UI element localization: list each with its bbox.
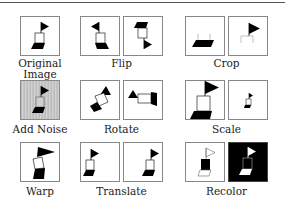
flag-figure-icon <box>81 17 119 55</box>
original-image-panel <box>20 16 60 56</box>
add-noise-panel <box>20 80 60 120</box>
translate-panel-left <box>80 142 120 182</box>
flag-figure-warped-icon <box>21 143 59 181</box>
flag-figure-icon <box>21 17 59 55</box>
flag-figure-icon <box>229 143 267 181</box>
scale-panel-small <box>228 80 268 120</box>
label-translate: Translate <box>80 186 163 197</box>
crop-panel-bottom <box>185 16 225 56</box>
flag-figure-crop-icon <box>229 17 267 55</box>
flag-figure-crop-icon <box>186 17 224 55</box>
label-recolor: Recolor <box>185 186 268 197</box>
label-image: Image <box>10 69 70 80</box>
recolor-panel-inverted-figure <box>185 142 225 182</box>
flag-figure-icon <box>124 143 162 181</box>
top-rule <box>0 2 285 3</box>
flag-figure-icon <box>21 81 59 119</box>
label-flip: Flip <box>80 58 163 69</box>
flag-figure-icon <box>81 143 119 181</box>
flag-figure-icon <box>124 17 162 55</box>
scale-panel-large <box>185 80 225 120</box>
flag-figure-icon <box>186 81 224 119</box>
flag-figure-icon <box>81 81 119 119</box>
label-crop: Crop <box>185 58 268 69</box>
recolor-panel-dark-background <box>228 142 268 182</box>
rotate-panel-diagonal <box>80 80 120 120</box>
label-warp: Warp <box>10 186 70 197</box>
label-add-noise: Add Noise <box>10 124 70 135</box>
flip-panel-vertical <box>123 16 163 56</box>
flip-panel-horizontal <box>80 16 120 56</box>
label-scale: Scale <box>185 124 268 135</box>
flag-figure-icon <box>124 81 162 119</box>
flag-figure-icon <box>229 81 267 119</box>
translate-panel-right <box>123 142 163 182</box>
crop-panel-top <box>228 16 268 56</box>
warp-panel <box>20 142 60 182</box>
rotate-panel-sideways <box>123 80 163 120</box>
flag-figure-icon <box>186 143 224 181</box>
label-rotate: Rotate <box>80 124 163 135</box>
